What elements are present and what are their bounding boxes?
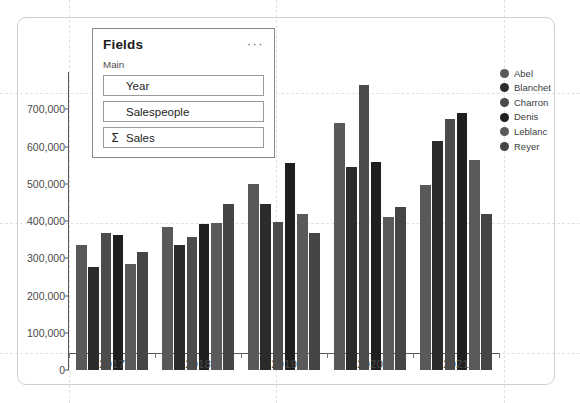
bar[interactable]: [334, 123, 345, 370]
bar[interactable]: [432, 141, 443, 370]
ellipsis-icon[interactable]: ···: [247, 37, 264, 49]
y-axis-tick-label: 600,000: [27, 141, 65, 153]
legend-item-label: Blanchet: [514, 83, 551, 93]
field-item-label: Year: [126, 80, 149, 92]
x-axis-tickmark: [155, 353, 156, 358]
legend-swatch-icon: [500, 98, 509, 107]
x-axis-tick-label: 2021: [443, 358, 469, 370]
x-axis-tickmark: [327, 353, 328, 358]
field-item[interactable]: ΣSales: [103, 127, 264, 148]
bar[interactable]: [101, 233, 112, 370]
bar[interactable]: [457, 113, 468, 370]
bar[interactable]: [211, 223, 222, 370]
legend-swatch-icon: [500, 83, 509, 92]
bar[interactable]: [297, 214, 308, 370]
fields-pane[interactable]: Fields ··· Main YearSalespeopleΣSales: [92, 28, 275, 158]
bar[interactable]: [359, 85, 370, 370]
x-axis-tickmark: [499, 353, 500, 358]
bar[interactable]: [187, 237, 198, 370]
fields-group-label: Main: [103, 59, 264, 70]
x-axis-tick-label: 2019: [271, 358, 297, 370]
bar[interactable]: [395, 207, 406, 370]
bar[interactable]: [137, 252, 148, 370]
legend-item[interactable]: Charron: [500, 95, 576, 110]
y-axis-labels: 0100,000200,000300,000400,000500,000600,…: [17, 17, 65, 385]
fields-pane-header: Fields ···: [103, 37, 264, 52]
bar[interactable]: [113, 235, 124, 370]
legend-item-label: Denis: [514, 112, 538, 122]
fields-list[interactable]: YearSalespeopleΣSales: [103, 75, 264, 148]
y-axis-tick-label: 100,000: [27, 327, 65, 339]
field-item[interactable]: Salespeople: [103, 101, 264, 122]
legend-item-label: Leblanc: [514, 127, 547, 137]
field-item[interactable]: Year: [103, 75, 264, 96]
bar[interactable]: [174, 245, 185, 370]
fields-pane-title: Fields: [103, 37, 143, 52]
legend-item[interactable]: Reyer: [500, 139, 576, 154]
y-axis-tick-label: 400,000: [27, 215, 65, 227]
screenshot-root: 0100,000200,000300,000400,000500,000600,…: [0, 0, 580, 403]
bar[interactable]: [88, 267, 99, 370]
y-axis-tick-label: 200,000: [27, 290, 65, 302]
bar[interactable]: [383, 217, 394, 370]
bar[interactable]: [125, 264, 136, 370]
legend-item-label: Charron: [514, 98, 548, 108]
x-axis-tick-label: 2018: [185, 358, 211, 370]
bar[interactable]: [273, 222, 284, 370]
bar[interactable]: [346, 167, 357, 370]
bar[interactable]: [199, 224, 210, 370]
y-axis-tick-label: 300,000: [27, 252, 65, 264]
sigma-icon: Σ: [104, 130, 126, 145]
x-axis-tick-label: 2017: [99, 358, 125, 370]
bar[interactable]: [371, 162, 382, 370]
legend-item[interactable]: Abel: [500, 66, 576, 81]
legend-item-label: Abel: [514, 69, 533, 79]
bar[interactable]: [309, 233, 320, 370]
bar[interactable]: [76, 245, 87, 370]
legend-item-label: Reyer: [514, 142, 539, 152]
x-axis-tickmark: [413, 353, 414, 358]
bar[interactable]: [469, 160, 480, 370]
bar[interactable]: [162, 227, 173, 370]
legend-swatch-icon: [500, 113, 509, 122]
bar[interactable]: [445, 119, 456, 370]
chart-legend[interactable]: AbelBlanchetCharronDenisLeblancReyer: [500, 66, 576, 154]
x-axis-tickmark: [241, 353, 242, 358]
bar[interactable]: [285, 163, 296, 370]
bar[interactable]: [420, 185, 431, 370]
legend-swatch-icon: [500, 142, 509, 151]
bar[interactable]: [481, 214, 492, 370]
y-axis-tick-label: 500,000: [27, 178, 65, 190]
legend-item[interactable]: Leblanc: [500, 124, 576, 139]
bar[interactable]: [223, 204, 234, 370]
legend-item[interactable]: Denis: [500, 110, 576, 125]
x-axis-tick-label: 2020: [357, 358, 383, 370]
legend-item[interactable]: Blanchet: [500, 81, 576, 96]
y-axis-tick-label: 700,000: [27, 103, 65, 115]
field-item-label: Sales: [126, 132, 155, 144]
x-axis-tickmark: [69, 353, 70, 358]
legend-swatch-icon: [500, 127, 509, 136]
legend-swatch-icon: [500, 69, 509, 78]
bar[interactable]: [260, 204, 271, 370]
field-item-label: Salespeople: [126, 106, 189, 118]
bar[interactable]: [248, 184, 259, 370]
